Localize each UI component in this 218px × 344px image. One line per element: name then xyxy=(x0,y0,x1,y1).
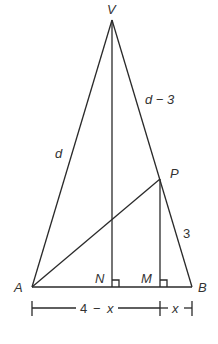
dim-label-minus: − xyxy=(93,301,101,316)
dim-label-4: 4 xyxy=(80,301,87,316)
label-N: N xyxy=(95,271,105,286)
dim-label-x-right: x xyxy=(171,301,179,316)
label-P: P xyxy=(170,166,179,181)
label-V: V xyxy=(107,2,117,17)
right-angle-M-icon xyxy=(160,280,167,287)
side-VB xyxy=(112,20,192,287)
right-angle-N-icon xyxy=(112,280,119,287)
label-d-minus-3: d − 3 xyxy=(145,92,175,107)
dim-label-x-left: x xyxy=(106,301,114,316)
label-B: B xyxy=(198,280,207,295)
side-VA xyxy=(32,20,112,287)
geometry-diagram: V A B P N M d d − 3 3 4 − x x xyxy=(0,0,218,344)
label-M: M xyxy=(141,271,152,286)
label-3: 3 xyxy=(183,226,190,241)
label-d: d xyxy=(55,146,63,161)
label-A: A xyxy=(13,280,23,295)
